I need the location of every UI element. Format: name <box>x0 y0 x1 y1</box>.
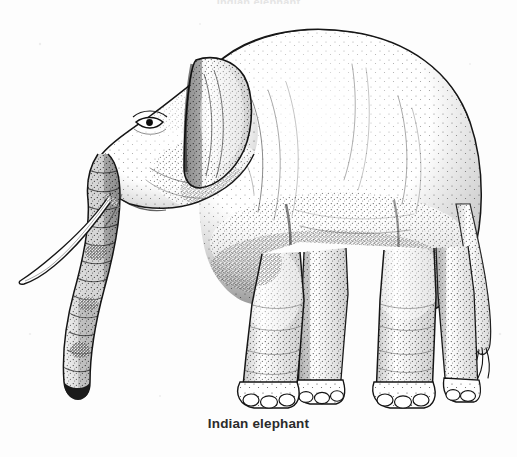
indian-elephant-illustration <box>0 4 517 416</box>
hind-toenails <box>377 394 429 408</box>
fore-toenails <box>243 394 295 408</box>
figure-area <box>0 4 517 416</box>
scanned-page: Indian elephant <box>0 0 517 457</box>
hind-leg-near <box>372 240 440 408</box>
figure-caption: Indian elephant <box>0 416 517 431</box>
